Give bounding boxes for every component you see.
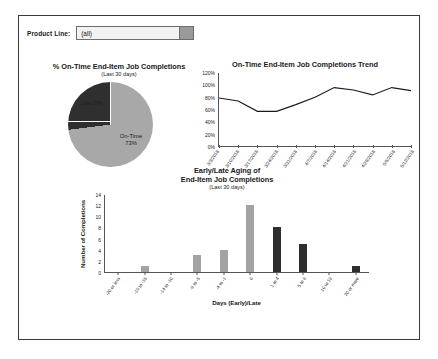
aging-bar-column bbox=[158, 195, 184, 272]
aging-x-tick-label: -9 to -5 bbox=[188, 276, 200, 291]
dashboard-panel: Product Line: (all) % On-Time End-Item J… bbox=[18, 15, 420, 340]
aging-x-label-cell: 5 to 9 bbox=[290, 275, 317, 301]
aging-bar-column bbox=[290, 195, 316, 272]
aging-x-label-cell: -20 or less bbox=[104, 275, 131, 301]
aging-x-label-cell: -4 to -1 bbox=[210, 275, 237, 301]
aging-x-label-cell: -9 to -5 bbox=[184, 275, 211, 301]
aging-bar-column bbox=[316, 195, 342, 272]
pie-divider-vertical bbox=[110, 82, 111, 125]
aging-x-tick-label: 1 to 4 bbox=[270, 276, 281, 288]
aging-x-tick-label: -4 to -1 bbox=[215, 276, 227, 291]
trend-x-tick-label: 3/3/2018 bbox=[206, 149, 220, 167]
trend-axes bbox=[218, 73, 411, 147]
aging-x-tick-label: -19 to -15 bbox=[132, 276, 147, 295]
aging-chart-subtitle: (Last 30 days) bbox=[77, 184, 377, 191]
aging-y-tick-label: 4 bbox=[98, 248, 101, 253]
pie-divider-horizontal bbox=[68, 121, 111, 122]
trend-y-tick-label: 20% bbox=[205, 132, 215, 137]
pie-slice-label-late: Late 27% bbox=[79, 100, 105, 106]
aging-x-label-cell: -14 to -10 bbox=[157, 275, 184, 301]
aging-x-tick-label: 10 to 19 bbox=[320, 276, 334, 292]
aging-y-tick-label: 12 bbox=[95, 204, 101, 209]
aging-x-label-cell: 10 to 19 bbox=[316, 275, 343, 301]
aging-chart-title-line2: End-Item Job Completions bbox=[77, 175, 377, 184]
ontime-pie-chart: % On-Time End-Item Job Completions (Last… bbox=[29, 62, 209, 174]
trend-y-tick-label: 40% bbox=[205, 120, 215, 125]
pie-plot-area: Late 27% On-Time 73% bbox=[29, 78, 209, 174]
aging-x-axis-title: Days (Early)/Late bbox=[104, 299, 369, 306]
trend-y-tick-label: 100% bbox=[202, 83, 215, 88]
aging-x-label-cell: -19 to -15 bbox=[131, 275, 158, 301]
aging-bar-series bbox=[105, 195, 369, 272]
product-line-filter: Product Line: (all) bbox=[27, 26, 194, 40]
pie-ontime-name: On-Time bbox=[114, 133, 148, 140]
aging-bar[interactable] bbox=[220, 250, 228, 272]
aging-bar-column bbox=[263, 195, 289, 272]
product-line-label: Product Line: bbox=[27, 30, 70, 37]
trend-x-tick-label: 5/12/2018 bbox=[399, 149, 415, 169]
trend-y-axis-labels: 0%20%40%60%80%100%120% bbox=[197, 73, 217, 147]
aging-bar[interactable] bbox=[273, 227, 281, 272]
aging-bar[interactable] bbox=[193, 255, 201, 272]
aging-y-tick-label: 10 bbox=[95, 215, 101, 220]
trend-x-tick-label: 4/7/2018 bbox=[303, 149, 317, 167]
aging-x-tick-label: 5 to 9 bbox=[296, 276, 307, 288]
aging-x-tick-label: -14 to -10 bbox=[159, 276, 174, 295]
aging-x-tick-label: 0 bbox=[248, 276, 254, 281]
aging-bar-column bbox=[105, 195, 131, 272]
aging-x-label-cell: 1 to 4 bbox=[263, 275, 290, 301]
aging-bar-column bbox=[237, 195, 263, 272]
trend-y-tick-label: 120% bbox=[202, 71, 215, 76]
trend-y-tick-label: 0% bbox=[208, 145, 215, 150]
aging-bar-column bbox=[131, 195, 157, 272]
pie-chart-subtitle: (Last 30 days) bbox=[29, 71, 209, 78]
aging-bar-column bbox=[184, 195, 210, 272]
pie-slice-label-ontime: On-Time 73% bbox=[114, 133, 148, 147]
aging-y-tick-label: 14 bbox=[95, 193, 101, 198]
aging-y-tick-label: 0 bbox=[98, 271, 101, 276]
aging-y-tick-label: 2 bbox=[98, 259, 101, 264]
dropdown-arrow-icon[interactable] bbox=[179, 27, 193, 39]
trend-plot-area: 0%20%40%60%80%100%120% bbox=[197, 73, 413, 147]
aging-bar-column bbox=[343, 195, 369, 272]
aging-y-tick-label: 6 bbox=[98, 237, 101, 242]
aging-x-tick-label: 20 or more bbox=[343, 276, 360, 297]
aging-x-tick-label: -20 or less bbox=[105, 276, 121, 296]
pie-ontime-percent: 73% bbox=[114, 140, 148, 147]
trend-x-tick-label: 5/5/2018 bbox=[381, 149, 395, 167]
aging-chart-title-line1: Early/Late Aging of bbox=[77, 166, 377, 175]
aging-bar[interactable] bbox=[299, 244, 307, 272]
aging-plot-body: Number of Completions 02468101214 -20 or… bbox=[77, 195, 377, 300]
aging-bar[interactable] bbox=[246, 205, 254, 272]
trend-y-tick-label: 80% bbox=[205, 95, 215, 100]
aging-x-label-cell: 20 or more bbox=[343, 275, 370, 301]
aging-y-axis-title: Number of Completions bbox=[77, 195, 87, 273]
aging-bar-chart: Early/Late Aging of End-Item Job Complet… bbox=[77, 166, 377, 300]
aging-x-axis-labels: -20 or less-19 to -15-14 to -10-9 to -5-… bbox=[104, 275, 369, 301]
aging-y-axis-labels: 02468101214 bbox=[87, 195, 103, 273]
trend-y-tick-label: 60% bbox=[205, 108, 215, 113]
trend-line-series bbox=[219, 73, 411, 146]
pie-chart-title: % On-Time End-Item Job Completions bbox=[29, 62, 209, 71]
product-line-value: (all) bbox=[77, 27, 179, 39]
aging-x-label-cell: 0 bbox=[237, 275, 264, 301]
product-line-dropdown[interactable]: (all) bbox=[76, 26, 194, 40]
aging-axes bbox=[104, 195, 369, 273]
aging-y-tick-label: 8 bbox=[98, 226, 101, 231]
aging-bar-column bbox=[211, 195, 237, 272]
trend-chart-title: On-Time End-Item Job Completions Trend bbox=[197, 60, 413, 69]
